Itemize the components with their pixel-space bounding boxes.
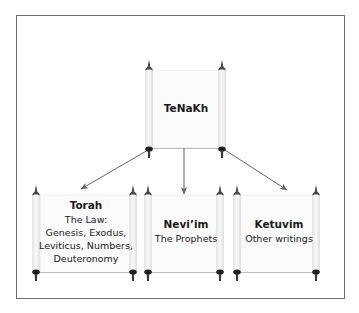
handle-icon [216, 269, 224, 281]
finial-icon [144, 185, 152, 196]
arrow-to-torah [81, 150, 148, 189]
handle-icon [218, 146, 226, 158]
finial-icon [32, 185, 40, 196]
handle-icon [32, 269, 40, 281]
handle-icon [233, 269, 241, 281]
arrow-to-ketuvim [225, 150, 287, 190]
finial-icon [218, 60, 226, 71]
finial-icon [216, 185, 224, 196]
handle-icon [145, 146, 153, 158]
diagram-graphics [0, 0, 359, 313]
finial-icon [145, 60, 153, 71]
handle-icon [129, 269, 137, 281]
finial-icon [233, 185, 241, 196]
handle-icon [144, 269, 152, 281]
arrows [81, 148, 287, 194]
handle-icon [312, 269, 320, 281]
finial-icon [312, 185, 320, 196]
finial-icon [129, 185, 137, 196]
